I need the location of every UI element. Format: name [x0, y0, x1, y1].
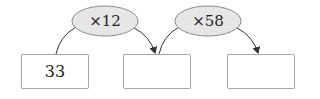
operator-label-1: ×12: [72, 6, 138, 36]
operator-label-2: ×58: [175, 6, 241, 36]
value-box-3[interactable]: [227, 54, 295, 89]
value-box-2[interactable]: [123, 54, 191, 89]
value-box-1: 33: [21, 54, 89, 89]
